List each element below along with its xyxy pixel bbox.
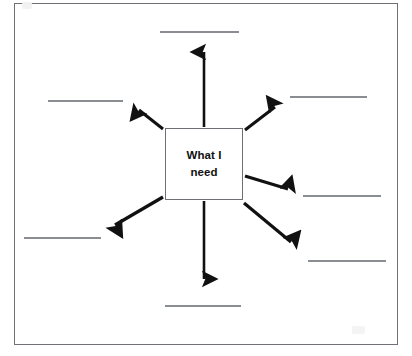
blank-line-bottom-left[interactable] xyxy=(24,237,101,239)
center-topic-label-line1: What I xyxy=(186,147,221,164)
center-topic-label-line2: need xyxy=(190,164,217,181)
blank-line-top-right[interactable] xyxy=(290,96,367,98)
arrow-down-right-icon xyxy=(244,203,291,242)
worksheet-canvas: What I need xyxy=(0,0,412,356)
arrow-right-icon xyxy=(245,176,288,189)
blank-line-top-left[interactable] xyxy=(48,100,123,102)
center-topic-box[interactable]: What I need xyxy=(165,128,243,200)
arrow-up-right-icon xyxy=(245,107,275,130)
arrow-down-left-icon xyxy=(115,197,163,225)
blank-line-bottom[interactable] xyxy=(165,305,241,307)
blank-line-top[interactable] xyxy=(160,31,239,33)
blank-line-bottom-right[interactable] xyxy=(308,260,386,262)
arrow-up-left-icon xyxy=(139,110,163,129)
blank-line-right[interactable] xyxy=(303,195,381,197)
